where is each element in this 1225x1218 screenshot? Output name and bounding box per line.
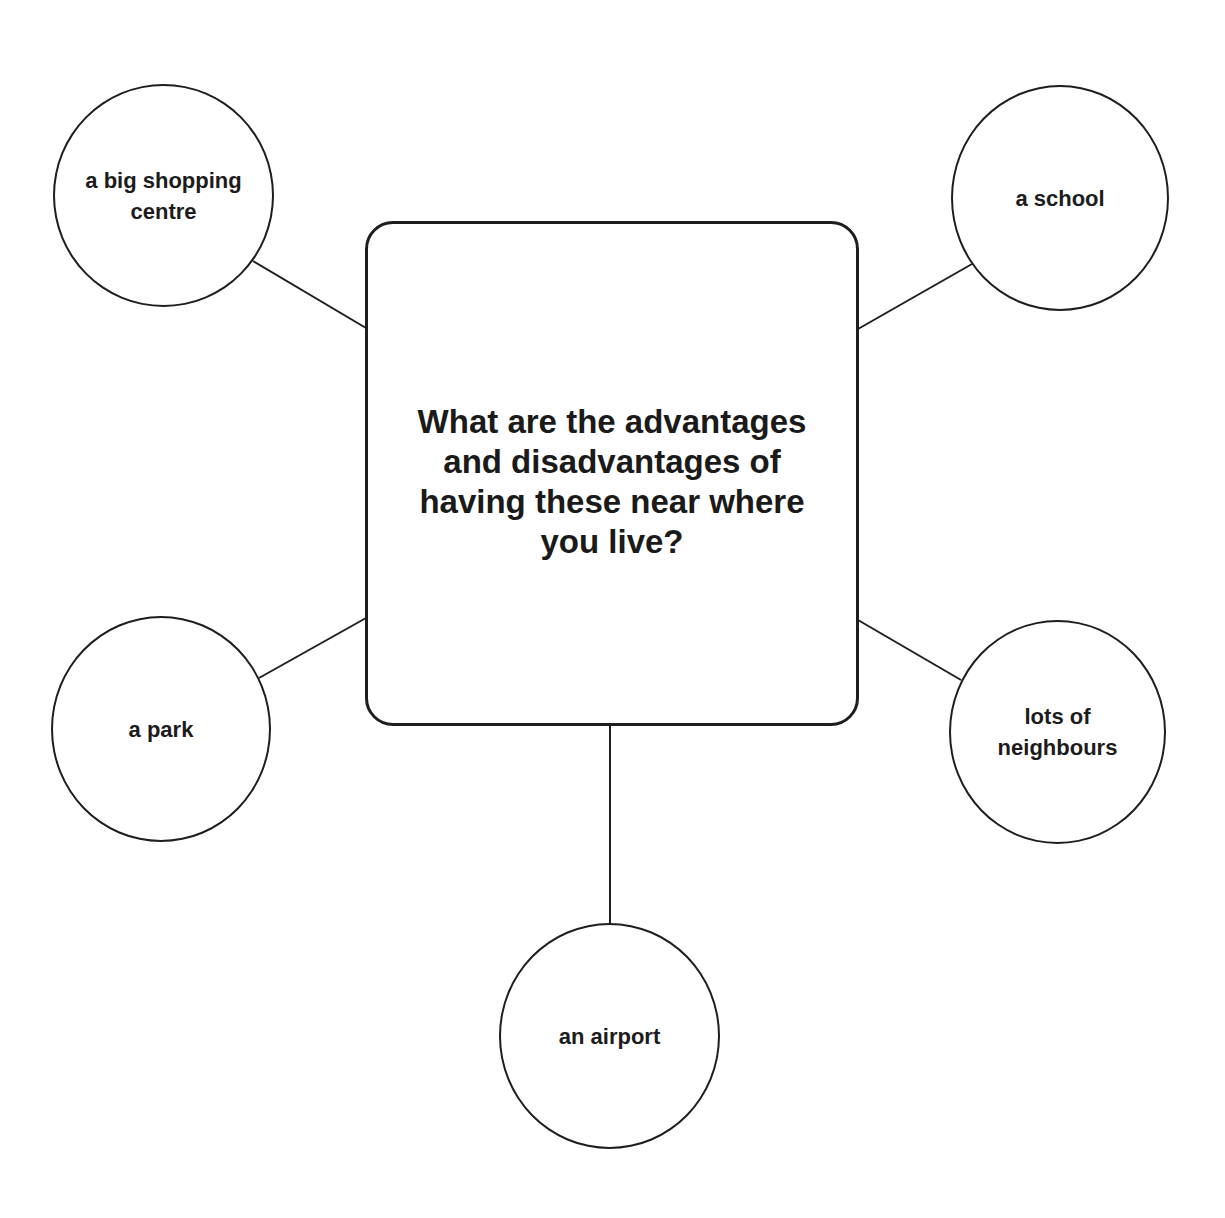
connector-shopping-centre	[253, 261, 366, 328]
node-school: a school	[951, 85, 1169, 311]
connector-park	[259, 618, 366, 678]
connector-neighbours	[858, 620, 961, 680]
central-question: What are the advantages and disadvantage…	[392, 402, 832, 562]
node-label: an airport	[551, 1021, 668, 1052]
node-label: a big shopping centre	[61, 165, 267, 227]
node-label: a school	[1007, 183, 1112, 214]
node-park: a park	[51, 616, 271, 842]
node-airport: an airport	[499, 923, 720, 1149]
node-shopping-centre: a big shopping centre	[53, 84, 274, 307]
node-label: a park	[121, 714, 202, 745]
connector-school	[858, 264, 972, 329]
node-label: lots of neighbours	[985, 701, 1131, 763]
node-neighbours: lots of neighbours	[949, 620, 1166, 844]
central-question-box: What are the advantages and disadvantage…	[365, 221, 859, 726]
